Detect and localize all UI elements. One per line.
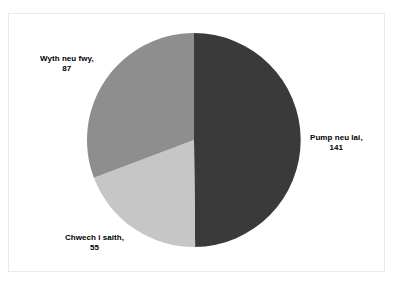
pie-label-chwech-i-saith: Chwech i saith, 55 (65, 233, 124, 253)
pie-label-pump-neu-lai-name: Pump neu lai, (310, 133, 363, 143)
pie-label-pump-neu-lai-value: 141 (310, 143, 363, 153)
pie-chart-plot-area: Wyth neu fwy, 87 Pump neu lai, 141 Chwec… (0, 0, 403, 288)
pie-label-chwech-i-saith-name: Chwech i saith, (65, 233, 124, 243)
pie-label-wyth-neu-fwy-value: 87 (40, 64, 94, 74)
pie-slice-pump-neu-lai[interactable] (194, 33, 301, 247)
pie-slices (87, 33, 301, 247)
pie-label-pump-neu-lai: Pump neu lai, 141 (310, 133, 363, 153)
pie-label-chwech-i-saith-value: 55 (65, 243, 124, 253)
screenshot-root: Wyth neu fwy, 87 Pump neu lai, 141 Chwec… (0, 0, 403, 288)
pie-label-wyth-neu-fwy: Wyth neu fwy, 87 (40, 54, 94, 74)
pie-label-wyth-neu-fwy-name: Wyth neu fwy, (40, 54, 94, 64)
